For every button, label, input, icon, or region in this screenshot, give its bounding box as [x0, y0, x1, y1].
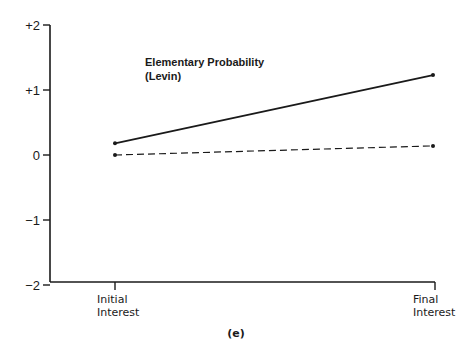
- figure-caption: (e): [227, 327, 245, 340]
- chart-title-line-1: Elementary Probability: [145, 56, 265, 68]
- chart-title-line-2: (Levin): [145, 70, 181, 82]
- y-ticks: +2+10−1−2: [25, 18, 50, 293]
- y-tick-label: 0: [33, 148, 40, 163]
- data-point-marker: [431, 144, 435, 148]
- data-point-marker: [431, 73, 435, 77]
- data-point-marker: [113, 153, 117, 157]
- y-tick-label: +2: [25, 18, 40, 33]
- y-tick-label: +1: [25, 83, 40, 98]
- data-point-marker: [113, 141, 117, 145]
- x-label-final-line-2: Interest: [413, 306, 456, 319]
- series-line-dashed: [115, 146, 433, 155]
- x-label-initial-line-2: Interest: [97, 306, 140, 319]
- x-label-initial-line-1: Initial: [97, 293, 127, 306]
- data-series: [113, 73, 435, 157]
- line-chart: +2+10−1−2 Elementary Probability (Levin)…: [0, 0, 473, 361]
- series-line-solid: [115, 75, 433, 143]
- x-label-final-line-1: Final: [413, 293, 438, 306]
- y-tick-label: −2: [25, 278, 40, 293]
- y-tick-label: −1: [25, 213, 40, 228]
